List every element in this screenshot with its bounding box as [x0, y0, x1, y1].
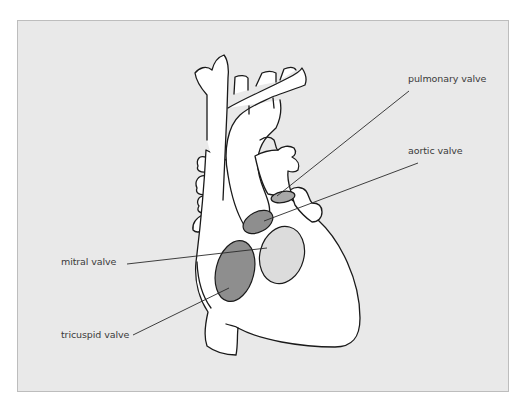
mitral-valve-label: mitral valve [61, 256, 116, 267]
aortic-valve-label: aortic valve [408, 145, 463, 156]
brachiocephalic-branch [234, 76, 248, 94]
pulmonary-valve-label: pulmonary valve [408, 73, 486, 84]
heart-diagram [0, 0, 527, 407]
carotid-branch [256, 72, 276, 87]
pulmonary-leader-line [277, 91, 409, 196]
tricuspid-valve-label: tricuspid valve [61, 329, 129, 340]
